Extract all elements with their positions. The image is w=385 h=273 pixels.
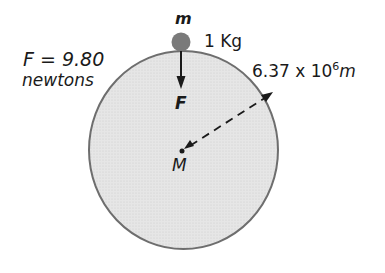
force-unit-label: newtons [22,72,94,89]
radius-base: 6.37 x 10 [252,61,332,81]
radius-exponent: 6 [332,60,339,73]
small-mass-symbol: m [175,11,192,27]
radius-label: 6.37 x 106m [252,63,356,80]
gravity-diagram: F = 9.80 newtons m 1 Kg 6.37 x 106m F M [0,0,385,273]
diagram-canvas [0,0,385,273]
force-equation-label: F = 9.80 [23,50,104,69]
mass-ball [172,33,191,52]
radius-unit: m [339,61,356,81]
force-arrow-label: F [175,95,187,112]
earth-mass-label: M [172,157,187,174]
earth-center-dot [180,149,185,154]
small-mass-value: 1 Kg [204,33,242,50]
